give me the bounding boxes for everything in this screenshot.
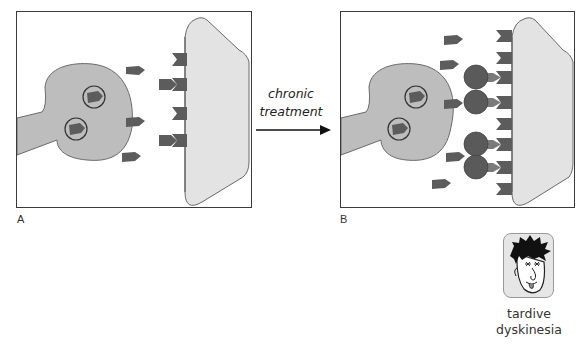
dopamine-molecule [446,152,465,162]
postsynaptic-neuron [512,18,573,206]
receptor [496,30,512,42]
receptor [172,53,187,66]
receptor [496,183,512,195]
blocker-drug [464,132,488,156]
panel-a [16,11,252,208]
receptor [496,52,512,64]
blocker-drug [464,65,488,89]
blocker-drug [464,90,488,114]
postsynaptic-neuron [185,18,249,206]
transition-line2: treatment [246,103,336,121]
dopamine-molecule [444,35,463,45]
synapse-diagram-b [341,12,576,209]
dopamine-molecule [444,99,463,109]
outcome-caption: tardive dyskinesia [484,306,574,338]
face-icon [503,233,554,298]
receptor [496,118,512,130]
transition-line1: chronic [246,85,336,103]
presynaptic-neuron [341,64,453,161]
receptor [172,107,187,120]
dopamine-molecule [126,117,145,127]
panel-label-a: A [17,213,24,225]
dopamine-molecule [122,152,141,162]
dopamine-molecule [440,60,459,70]
synapse-diagram-a [17,12,253,209]
panel-b [340,11,575,208]
panel-label-b: B [340,213,347,225]
dopamine-molecule [432,179,451,189]
transition-label: chronic treatment [246,85,336,121]
outcome-line1: tardive [484,306,574,322]
blocker-drug [464,155,488,179]
presynaptic-neuron [17,64,132,161]
arrow-right-icon [256,124,332,136]
dopamine-molecule [126,66,145,75]
outcome-line2: dyskinesia [484,322,574,338]
